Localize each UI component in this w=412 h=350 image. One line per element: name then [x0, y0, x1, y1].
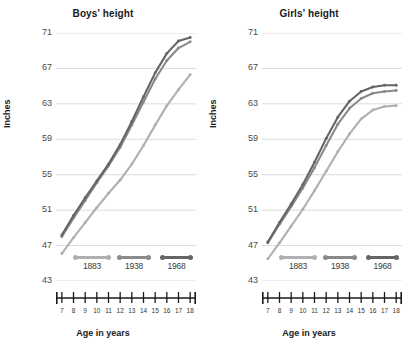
data-point	[189, 36, 192, 39]
legend-endpoint-dot	[146, 255, 151, 260]
x-axis-svg-boys	[56, 292, 196, 306]
legend-endpoint-dot	[106, 255, 111, 260]
y-tick-label: 51	[232, 204, 258, 214]
data-point	[336, 150, 339, 153]
plot-area-boys	[56, 33, 196, 281]
x-tick-label: 10	[297, 307, 309, 314]
x-axis-label-girls: Age in years	[206, 328, 412, 338]
gridlines-girls	[262, 33, 402, 281]
y-tick-label: 43	[26, 275, 52, 285]
chart-title-girls: Girls' height	[206, 8, 412, 19]
data-point	[383, 84, 386, 87]
series-lines-girls	[266, 84, 397, 260]
legend-endpoint-dot	[73, 255, 78, 260]
series-line-1938	[268, 91, 396, 243]
legend-endpoint-dot	[366, 255, 371, 260]
data-point	[313, 166, 316, 169]
x-axis-svg-girls	[262, 292, 402, 306]
data-point	[360, 97, 363, 100]
legend-item-1883[interactable]: 1883	[70, 256, 114, 271]
x-tick-label: 18	[390, 307, 402, 314]
x-tick-label: 8	[68, 307, 80, 314]
data-point	[290, 202, 293, 205]
data-point	[313, 189, 316, 192]
data-point	[119, 179, 122, 182]
legend-boys: 188319381968	[56, 256, 196, 282]
data-point	[107, 163, 110, 166]
legend-item-1968[interactable]: 1968	[363, 256, 402, 271]
data-point	[301, 208, 304, 211]
data-point	[278, 221, 281, 224]
legend-item-1938[interactable]: 1938	[320, 256, 360, 271]
x-tick-label: 12	[114, 307, 126, 314]
legend-item-1968[interactable]: 1968	[157, 256, 196, 271]
data-point	[177, 47, 180, 50]
legend-swatch	[280, 256, 316, 259]
legend-label: 1883	[70, 261, 114, 271]
legend-endpoint-dot	[188, 255, 193, 260]
data-point	[383, 105, 386, 108]
data-point	[371, 92, 374, 95]
x-tick-label: 16	[367, 307, 379, 314]
data-point	[189, 40, 192, 43]
x-axis-ruler-girls	[262, 292, 402, 306]
legend-endpoint-dot	[279, 255, 284, 260]
data-point	[154, 124, 157, 127]
gridlines-boys	[56, 33, 196, 281]
legend-endpoint-dot	[352, 255, 357, 260]
x-tick-label: 9	[285, 307, 297, 314]
legend-item-1938[interactable]: 1938	[114, 256, 154, 271]
legend-endpoint-dot	[323, 255, 328, 260]
data-point	[348, 107, 351, 110]
x-axis-ruler-boys	[56, 292, 196, 306]
data-point	[325, 170, 328, 173]
data-point	[130, 163, 133, 166]
y-tick-label: 59	[26, 133, 52, 143]
x-tick-label: 14	[344, 307, 356, 314]
data-point	[119, 143, 122, 146]
x-tick-label: 15	[355, 307, 367, 314]
y-tick-label: 47	[26, 240, 52, 250]
data-point	[290, 225, 293, 228]
x-tick-label: 18	[184, 307, 196, 314]
y-tick-label: 67	[26, 62, 52, 72]
data-point	[348, 133, 351, 136]
legend-swatch	[118, 256, 150, 259]
y-tick-label: 47	[232, 240, 258, 250]
x-tick-label: 10	[91, 307, 103, 314]
data-point	[60, 233, 63, 236]
data-point	[84, 196, 87, 199]
legend-item-1883[interactable]: 1883	[276, 256, 320, 271]
y-tick-label: 43	[232, 275, 258, 285]
data-point	[371, 109, 374, 112]
data-point	[165, 59, 168, 62]
data-point	[395, 104, 398, 107]
legend-swatch	[161, 256, 192, 259]
legend-endpoint-dot	[117, 255, 122, 260]
x-tick-label: 11	[309, 307, 321, 314]
x-tick-label: 11	[103, 307, 115, 314]
data-point	[301, 183, 304, 186]
data-point	[325, 144, 328, 147]
data-point	[72, 236, 75, 239]
data-point	[371, 86, 374, 89]
data-point	[266, 241, 269, 244]
x-tick-label: 9	[79, 307, 91, 314]
data-point	[107, 192, 110, 195]
y-tick-label: 67	[232, 62, 258, 72]
data-point	[177, 40, 180, 43]
data-point	[165, 104, 168, 107]
data-point	[142, 95, 145, 98]
x-tick-label: 7	[262, 307, 274, 314]
data-point	[130, 120, 133, 123]
plot-svg-boys	[56, 33, 196, 281]
data-point	[154, 71, 157, 74]
legend-endpoint-dot	[160, 255, 165, 260]
y-tick-label: 63	[26, 98, 52, 108]
x-tick-label: 12	[320, 307, 332, 314]
data-point	[142, 144, 145, 147]
plot-svg-girls	[262, 33, 402, 281]
legend-label: 1938	[320, 261, 360, 271]
data-point	[189, 73, 192, 76]
x-tick-label: 8	[274, 307, 286, 314]
